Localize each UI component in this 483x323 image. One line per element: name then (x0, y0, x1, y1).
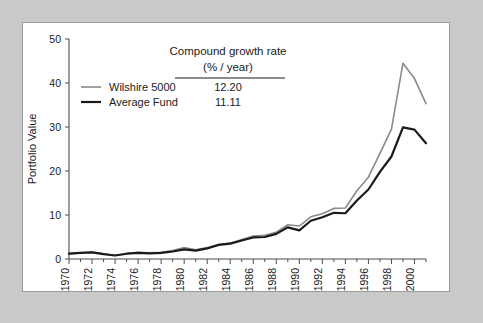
x-tick-label-1974: 1974 (105, 268, 117, 291)
line-chart-plot: 0102030405019701972197419761978198019821… (23, 23, 449, 291)
chart-legend: Compound growth rate(% / year)Wilshire 5… (81, 45, 286, 108)
x-tick-label-1984: 1984 (220, 268, 232, 291)
x-tick-label-1996: 1996 (358, 268, 370, 291)
y-tick-label-50: 50 (49, 33, 61, 45)
legend-label-wilshire-5000: Wilshire 5000 (109, 81, 176, 93)
x-tick-label-1976: 1976 (128, 268, 140, 291)
x-tick-label-1970: 1970 (59, 268, 71, 291)
x-tick-label-1992: 1992 (312, 268, 324, 291)
x-tick-label-1982: 1982 (197, 268, 209, 291)
y-tick-label-10: 10 (49, 209, 61, 221)
y-tick-label-0: 0 (55, 253, 61, 265)
x-tick-label-1994: 1994 (335, 268, 347, 291)
legend-value-wilshire-5000: 12.20 (214, 81, 242, 93)
x-tick-label-1972: 1972 (82, 268, 94, 291)
legend-value-average-fund: 11.11 (215, 96, 241, 108)
x-tick-label-1998: 1998 (381, 268, 393, 291)
x-tick-label-1986: 1986 (243, 268, 255, 291)
x-tick-label-1980: 1980 (174, 268, 186, 291)
x-tick-label-1990: 1990 (289, 268, 301, 291)
legend-header-line2: (% / year) (203, 61, 253, 73)
y-tick-label-40: 40 (49, 77, 61, 89)
series-line-average-fund (69, 127, 426, 255)
legend-header-line1: Compound growth rate (170, 45, 287, 57)
y-tick-label-30: 30 (49, 121, 61, 133)
x-tick-label-1978: 1978 (151, 268, 163, 291)
y-axis-title: Portfolio Value (26, 114, 38, 185)
x-tick-label-2000: 2000 (404, 268, 416, 291)
legend-label-average-fund: Average Fund (109, 96, 178, 108)
figure-root: 0102030405019701972197419761978198019821… (0, 0, 483, 323)
x-tick-label-1988: 1988 (266, 268, 278, 291)
y-tick-label-20: 20 (49, 165, 61, 177)
chart-panel: 0102030405019701972197419761978198019821… (22, 22, 450, 292)
